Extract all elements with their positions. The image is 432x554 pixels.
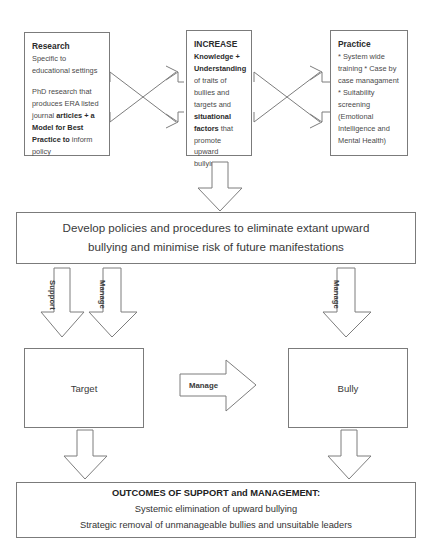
arrow-label-manage-middle: Manage	[189, 381, 218, 390]
research-heading-line: Research Specific to educational setting…	[32, 40, 103, 77]
increase-bold-1: Knowledge + Understanding	[194, 52, 246, 73]
connector-research-increase	[108, 64, 190, 132]
connector2-tail-up	[322, 72, 330, 82]
policy-line-2: bullying and minimise risk of future man…	[63, 238, 370, 257]
research-subtitle: Specific to educational settings	[32, 54, 97, 75]
practice-bullet-3: * Suitability screening (Emotional Intel…	[338, 88, 390, 145]
arrow-manage-to-target	[88, 268, 140, 338]
increase-plain-1: of traits of bullies and targets and	[194, 76, 231, 109]
bully-label: Bully	[338, 383, 359, 394]
outcomes-title: OUTCOMES OF SUPPORT and MANAGEMENT:	[80, 486, 352, 502]
arrow-label-manage-bully: Manage	[332, 280, 341, 309]
target-box: Target	[24, 348, 144, 428]
arrow-manage-bully-shape	[323, 268, 371, 337]
connector-tail-down	[178, 112, 184, 122]
connector2-tail-down	[322, 112, 330, 122]
outcomes-line-1: Systemic elimination of upward bullying	[80, 502, 352, 518]
target-label: Target	[71, 383, 98, 394]
increase-heading: INCREASE	[194, 38, 245, 51]
arrow-increase-to-policy	[196, 162, 244, 212]
research-body: PhD research that produces ERA listed jo…	[32, 86, 103, 158]
practice-heading-wrap: Practice * System wide training * Case b…	[338, 38, 401, 146]
research-box: Research Specific to educational setting…	[24, 32, 110, 156]
arrow-target-to-outcomes	[63, 430, 109, 480]
arrow-bully-down-shape	[328, 430, 371, 479]
practice-heading: Practice	[338, 38, 401, 51]
connector-increase-practice	[252, 64, 334, 132]
policy-box: Develop policies and procedures to elimi…	[16, 212, 416, 264]
policy-text: Develop policies and procedures to elimi…	[53, 219, 380, 257]
outcomes-text: OUTCOMES OF SUPPORT and MANAGEMENT: Syst…	[80, 486, 352, 534]
policy-line-1: Develop policies and procedures to elimi…	[63, 219, 370, 238]
arrow-label-manage-target: Manage	[98, 280, 107, 309]
arrow-bully-to-outcomes	[327, 430, 373, 480]
outcomes-line-2: Strategic removal of unmanageable bullie…	[80, 518, 352, 534]
research-heading: Research	[32, 40, 103, 53]
arrow-target-down-shape	[64, 430, 107, 479]
arrow-manage-target-shape	[89, 268, 137, 337]
outcomes-box: OUTCOMES OF SUPPORT and MANAGEMENT: Syst…	[16, 482, 416, 538]
arrow-label-support: Support	[48, 280, 57, 310]
bully-box: Bully	[288, 348, 408, 428]
arrow-down-shape	[198, 162, 242, 211]
connector-tail-up	[178, 72, 184, 82]
arrow-manage-to-bully	[322, 268, 374, 338]
diagram-canvas: Research Specific to educational setting…	[0, 0, 432, 554]
increase-box: INCREASEKnowledge + Understanding of tra…	[186, 30, 252, 156]
practice-box: Practice * System wide training * Case b…	[330, 30, 408, 156]
increase-content: INCREASEKnowledge + Understanding of tra…	[194, 38, 245, 170]
